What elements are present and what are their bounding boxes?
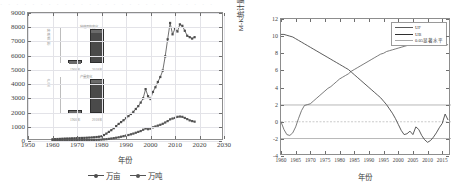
y-tick-label: 6000 [11, 52, 25, 59]
axis-tick [446, 19, 449, 20]
data-point [105, 133, 107, 135]
right-y-axis-title: M-K统计量 [235, 0, 245, 54]
axis-tick [384, 151, 385, 154]
data-point [135, 132, 137, 134]
data-point [189, 119, 191, 121]
axis-tick [219, 70, 222, 71]
axis-tick [428, 19, 429, 22]
legend-label: UF [415, 25, 421, 30]
right-chart-legend: UF UB 0.05显著水平 [391, 22, 447, 46]
x-tick-label: 2030 [217, 142, 231, 149]
axis-tick [281, 151, 282, 154]
gridline [28, 27, 222, 28]
y-tick-label: 0 [275, 118, 278, 125]
axis-tick [28, 56, 31, 57]
y-tick-label: 2 [275, 101, 278, 108]
data-point [93, 136, 95, 138]
axis-tick [442, 19, 443, 22]
axis-tick [398, 151, 399, 154]
axis-tick [354, 151, 355, 154]
axis-tick [219, 113, 222, 114]
axis-tick [413, 19, 414, 22]
y-tick-label: 4000 [11, 81, 25, 88]
data-point [69, 137, 71, 139]
data-point [147, 128, 149, 130]
axis-tick [281, 139, 284, 140]
axis-tick [219, 13, 222, 14]
axis-tick [219, 41, 222, 42]
data-point [88, 136, 90, 138]
axis-tick [281, 122, 284, 123]
left-chart-panel: 种植面积变化 种 植 面 积 1960年 2018年 产量变化 产 量 1960… [0, 8, 233, 185]
gridline [28, 13, 29, 139]
axis-tick [28, 98, 31, 99]
figure-container: · · · · · · · · · · · · · · · · · · · · … [0, 0, 467, 185]
left-plot-area: 种植面积变化 种 植 面 积 1960年 2018年 产量变化 产 量 1960… [27, 12, 223, 140]
axis-tick [175, 136, 176, 139]
data-point [140, 130, 142, 132]
axis-tick [281, 19, 282, 22]
data-point [81, 137, 83, 139]
data-point [127, 115, 129, 117]
axis-tick [384, 19, 385, 22]
gridline [28, 41, 222, 42]
gridline [151, 13, 152, 139]
data-point [127, 134, 129, 136]
axis-tick [28, 136, 29, 139]
data-point [194, 121, 196, 123]
x-tick-label: 1990 [119, 142, 133, 149]
axis-tick [224, 13, 225, 16]
y-tick-label: 1000 [11, 123, 25, 130]
left-x-axis-title: 年份 [27, 154, 223, 165]
axis-tick [102, 13, 103, 16]
legend-item: UB [395, 32, 443, 37]
axis-tick [428, 151, 429, 154]
data-point [137, 131, 139, 133]
legend-marker-icon [130, 173, 146, 179]
axis-tick [446, 36, 449, 37]
data-point [147, 95, 149, 97]
axis-tick [219, 27, 222, 28]
legend-item: UF [395, 25, 443, 30]
axis-tick [219, 56, 222, 57]
data-point [159, 124, 161, 126]
axis-tick [446, 70, 449, 71]
data-point [122, 135, 124, 137]
axis-tick [281, 36, 284, 37]
gridline [28, 98, 222, 99]
y-tick-label: 10 [272, 33, 278, 40]
axis-tick [28, 70, 31, 71]
axis-tick [446, 53, 449, 54]
y-tick-label: 8000 [11, 24, 25, 31]
axis-tick [296, 19, 297, 22]
data-point [162, 123, 164, 125]
right-plot-area: UF UB 0.05显著水平 -4-2024681012196019651970… [280, 18, 450, 155]
data-point [108, 131, 110, 133]
y-tick-label: 9000 [11, 10, 25, 17]
data-point [113, 137, 115, 139]
gridline [28, 84, 222, 85]
x-tick-label: 2005 [408, 157, 419, 163]
x-tick-label: 2000 [144, 142, 158, 149]
legend-label: 万亩 [106, 170, 120, 181]
legend-item: 万吨 [130, 170, 162, 181]
data-point [71, 137, 73, 139]
data-point [186, 35, 188, 37]
x-tick-label: 1970 [305, 157, 316, 163]
inset-category-label: 1960年 [70, 118, 80, 122]
data-point [176, 116, 178, 118]
legend-item: 万亩 [88, 170, 120, 181]
data-point [176, 30, 178, 32]
x-tick-label: 1975 [320, 157, 331, 163]
axis-tick [28, 113, 31, 114]
axis-tick [77, 13, 78, 16]
inset-category-label: 2018年 [92, 118, 102, 122]
legend-line-icon [395, 39, 413, 43]
left-chart-legend: 万亩 万吨 [27, 170, 223, 181]
x-tick-label: 1960 [46, 142, 60, 149]
x-tick-label: 1990 [364, 157, 375, 163]
data-point [186, 118, 188, 120]
legend-label: 0.05显著水平 [415, 38, 443, 43]
gridline [28, 56, 222, 57]
data-point [118, 136, 120, 138]
